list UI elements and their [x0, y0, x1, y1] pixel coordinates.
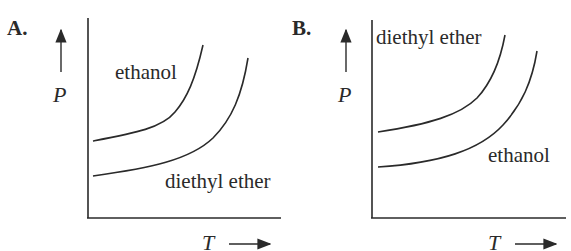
- diagram-canvas: [0, 0, 571, 251]
- panel-b-letter: B.: [292, 18, 311, 39]
- panel-b-x-axis-label: T: [488, 232, 500, 251]
- panel-b-curve-diethyl-ether: [378, 35, 505, 132]
- panel-a-letter: A.: [7, 18, 27, 39]
- panel-a-diethyl-ether-label: diethyl ether: [165, 171, 271, 192]
- panel-b-y-axis-label: P: [338, 84, 351, 106]
- panel-b-ethanol-label: ethanol: [488, 145, 550, 166]
- panel-a-ethanol-label: ethanol: [115, 62, 177, 83]
- panel-a-x-axis-label: T: [202, 232, 214, 251]
- panel-a-graph: [61, 18, 281, 244]
- panel-b-graph: [346, 20, 566, 244]
- panel-b-diethyl-ether-label: diethyl ether: [376, 27, 482, 48]
- panel-a-y-axis-label: P: [53, 84, 66, 106]
